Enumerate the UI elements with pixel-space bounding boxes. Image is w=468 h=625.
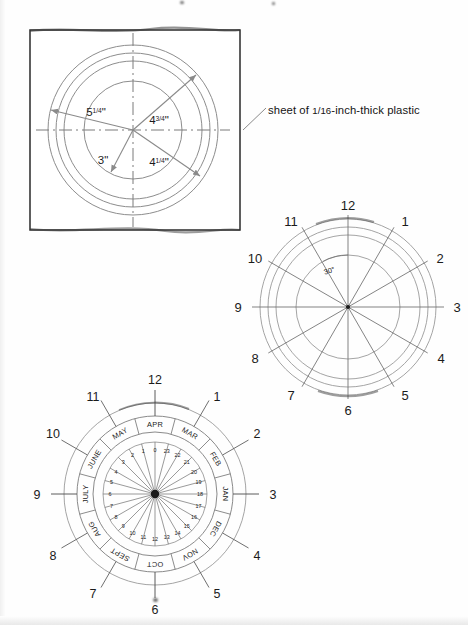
calendar-hour-label-1: 1 [214,390,221,404]
inner-num-12: 12 [152,536,158,542]
hour-label-3: 3 [453,300,460,315]
inner-num-23: 23 [164,448,170,454]
inner-num-21: 21 [184,459,190,465]
calendar-hour-label-12: 12 [148,373,162,387]
month-label-sept: SEPT [109,546,131,564]
inner-num-7: 7 [110,503,113,509]
inner-num-15: 15 [184,523,190,529]
inner-num-1: 1 [142,448,145,454]
inner-num-19: 19 [196,479,202,485]
inner-num-16: 16 [191,514,197,520]
inner-num-13: 13 [164,534,170,540]
calendar-hour-label-6: 6 [152,603,159,617]
hour-label-4: 4 [437,351,444,366]
calendar-hour-label-5: 5 [214,587,221,601]
calendar-hour-label-7: 7 [90,587,97,601]
figure-calendar-dial: APR MAR FEB JAN DEC NOV OCT SEPT AUG JUL… [25,380,285,615]
inner-num-17: 17 [196,503,202,509]
calendar-dial-svg: APR MAR FEB JAN DEC NOV OCT SEPT AUG JUL… [25,380,285,615]
inner-num-8: 8 [115,514,118,520]
angle-arc-30deg [323,255,348,261]
month-label-june: JUNE [85,448,103,470]
inner-num-2: 2 [131,452,134,458]
inner-num-10: 10 [130,530,136,536]
calendar-hour-label-8: 8 [50,549,57,563]
hour-dial-svg: 30° 12 1 2 3 4 5 6 7 8 9 10 11 [225,195,468,410]
inner-num-11: 11 [141,534,147,540]
calendar-dial-group: APR MAR FEB JAN DEC NOV OCT SEPT AUG JUL… [34,373,277,617]
month-label-oct: OCT [147,560,164,569]
callout-text-after: -inch-thick plastic [331,104,420,116]
hour-label-7: 7 [287,388,294,403]
hour-label-11: 11 [284,214,298,229]
inner-num-20: 20 [191,469,197,475]
scan-artifact-bottom-edge [0,616,468,625]
inner-num-9: 9 [122,523,125,529]
calendar-hour-label-9: 9 [34,488,41,502]
callout-leader-line [243,108,266,130]
drawing-page: 51/4" 43/4" 41/4" 3" sheet of 1/16-inch-… [0,0,468,625]
hour-label-10: 10 [248,251,262,266]
plastic-sheet-callout: sheet of 1/16-inch-thick plastic [268,104,420,116]
calendar-dial-center-dot [151,490,159,498]
inner-num-0: 0 [154,447,157,453]
hour-label-5: 5 [401,388,408,403]
dim-label-3in: 3" [98,154,109,166]
month-label-jan: JAN [221,487,230,502]
hour-label-2: 2 [436,251,443,266]
callout-text-before: sheet of [268,104,312,116]
month-label-apr: APR [147,420,163,429]
calendar-hour-label-4: 4 [254,549,261,563]
calendar-hour-label-2: 2 [254,427,261,441]
calendar-ring-smudge-top [119,403,189,410]
inner-num-14: 14 [175,530,181,536]
angle-label-30deg: 30° [323,265,336,277]
hour-label-8: 8 [251,351,258,366]
calendar-hour-label-11: 11 [87,390,100,404]
inner-num-18: 18 [197,491,203,497]
inner-num-22: 22 [175,452,181,458]
hour-label-9: 9 [234,300,241,315]
calendar-hour-label-10: 10 [46,427,60,441]
inner-num-5: 5 [110,479,113,485]
hour-label-6: 6 [344,403,351,418]
callout-fraction: 1/16 [312,105,331,116]
calendar-hour-label-3: 3 [270,488,277,502]
hour-label-12: 12 [341,198,355,213]
inner-num-6: 6 [109,491,112,497]
figure-hour-dial: 30° 12 1 2 3 4 5 6 7 8 9 10 11 [225,195,468,410]
inner-num-3: 3 [122,459,125,465]
scan-artifact-speck-b [272,2,275,5]
month-label-july: JULY [81,485,90,504]
inner-num-4: 4 [115,469,118,475]
hour-dial-center-dot [346,305,350,309]
hour-label-1: 1 [401,214,408,229]
